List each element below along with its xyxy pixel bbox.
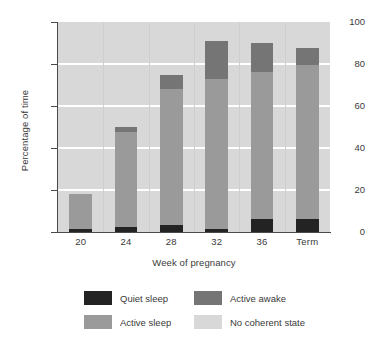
bar-segment-quiet-sleep: [205, 229, 228, 232]
bar-segment-active-sleep: [296, 65, 319, 219]
bar-24: [115, 127, 138, 232]
bar-segment-active-awake: [205, 41, 228, 79]
x-axis-title: Week of pregnancy: [58, 257, 330, 268]
bar-segment-quiet-sleep: [69, 229, 92, 232]
x-tick-label: Term: [285, 236, 330, 247]
bar-segment-quiet-sleep: [160, 225, 183, 232]
category-separator: [103, 22, 104, 232]
x-tick-label: 32: [194, 236, 239, 247]
legend-swatch: [84, 291, 112, 305]
x-axis-line: [57, 232, 331, 233]
y-axis-title: Percentage of time: [19, 61, 30, 201]
x-tick-label: 28: [149, 236, 194, 247]
category-separator: [239, 22, 240, 232]
x-tick-label: 20: [58, 236, 103, 247]
legend-item: Active awake: [194, 291, 342, 305]
bar-segment-active-sleep: [115, 132, 138, 227]
bar-term: [296, 48, 319, 232]
bar-32: [205, 41, 228, 232]
bar-segment-active-sleep: [251, 72, 274, 219]
y-tick-mark: [51, 64, 58, 65]
legend-swatch: [84, 315, 112, 329]
bar-20: [69, 194, 92, 232]
bar-segment-active-awake: [296, 48, 319, 65]
chart-legend: Quiet sleepActive awakeActive sleepNo co…: [84, 286, 342, 334]
y-tick-mark: [51, 22, 58, 23]
plot-area: [58, 22, 330, 232]
category-separator: [285, 22, 286, 232]
bar-segment-active-sleep: [69, 194, 92, 229]
bar-segment-quiet-sleep: [296, 219, 319, 232]
legend-swatch: [194, 291, 222, 305]
legend-swatch: [194, 315, 222, 329]
category-separator: [194, 22, 195, 232]
bar-segment-active-sleep: [205, 79, 228, 229]
bar-segment-quiet-sleep: [251, 219, 274, 232]
legend-label: Active awake: [230, 293, 286, 304]
bar-segment-active-awake: [160, 75, 183, 90]
legend-label: No coherent state: [230, 317, 305, 328]
bar-segment-active-awake: [251, 43, 274, 72]
stacked-bar-chart-figure: Percentage of time 020406080100 20242832…: [0, 0, 365, 339]
legend-label: Quiet sleep: [120, 293, 168, 304]
y-tick-mark: [51, 148, 58, 149]
x-tick-label: 36: [239, 236, 284, 247]
legend-item: No coherent state: [194, 315, 342, 329]
y-tick-mark: [51, 190, 58, 191]
category-separator: [149, 22, 150, 232]
legend-label: Active sleep: [120, 317, 171, 328]
y-tick-mark: [51, 232, 58, 233]
x-tick-label: 24: [103, 236, 148, 247]
legend-item: Active sleep: [84, 315, 194, 329]
bar-segment-active-sleep: [160, 89, 183, 224]
legend-item: Quiet sleep: [84, 291, 194, 305]
y-tick-mark: [51, 106, 58, 107]
bar-segment-quiet-sleep: [115, 227, 138, 232]
bar-36: [251, 43, 274, 232]
bar-28: [160, 75, 183, 233]
